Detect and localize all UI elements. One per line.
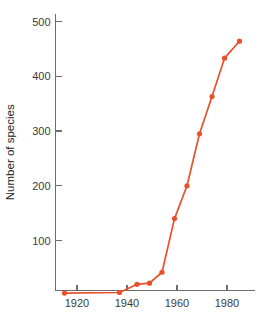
x-tick-label: 1940: [115, 297, 139, 309]
chart-figure: 1002003004005001920194019601980 Number o…: [0, 0, 265, 325]
y-tick-label: 400: [32, 70, 50, 82]
axis-spine: [56, 14, 256, 291]
y-tick-label: 200: [32, 180, 50, 192]
y-tick-label: 300: [32, 125, 50, 137]
series-data-point: [117, 290, 122, 295]
line-chart: 1002003004005001920194019601980 Number o…: [0, 0, 265, 325]
x-tick-label: 1920: [65, 297, 89, 309]
series-data-point: [237, 39, 242, 44]
chart-ticks: [56, 22, 228, 291]
x-tick-label: 1980: [215, 297, 239, 309]
chart-axes: [56, 14, 256, 291]
chart-tick-labels: 1002003004005001920194019601980: [32, 16, 239, 309]
series-data-point: [134, 282, 139, 287]
series-data-point: [159, 270, 164, 275]
y-axis-title: Number of species: [4, 104, 16, 200]
chart-series: [62, 39, 242, 296]
x-tick-label: 1960: [165, 297, 189, 309]
series-data-point: [172, 216, 177, 221]
series-data-point: [222, 56, 227, 61]
y-tick-label: 100: [32, 235, 50, 247]
series-data-point: [209, 94, 214, 99]
series-line: [65, 41, 240, 293]
chart-axis-titles: Number of species: [4, 104, 16, 200]
series-data-point: [197, 131, 202, 136]
y-tick-label: 500: [32, 16, 50, 28]
series-data-point: [62, 290, 67, 295]
series-data-point: [184, 183, 189, 188]
series-data-point: [147, 281, 152, 286]
